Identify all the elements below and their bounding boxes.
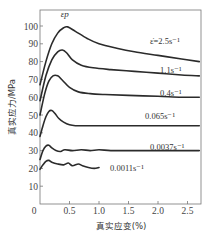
series-label: 0.0037s⁻¹	[150, 142, 185, 152]
y-tick-label: 50	[29, 111, 39, 121]
x-tick-label: 2.0	[152, 206, 164, 216]
y-tick-label: 40	[29, 128, 39, 138]
stress-strain-chart: 102030405060708090100 0.51.01.52.02.5 ε̇…	[0, 0, 210, 237]
y-tick-label: 30	[29, 146, 39, 156]
y-axis-title: 真实应力/MPa	[7, 79, 17, 135]
x-tick-label: 2.5	[182, 206, 194, 216]
y-tick-label: 20	[29, 164, 39, 174]
series-label: 0.065s⁻¹	[145, 111, 175, 121]
series-label: ε̇=2.5s⁻¹	[150, 36, 180, 46]
origin-label: 0	[32, 206, 37, 216]
series-label: 0.0011s⁻¹	[110, 163, 144, 173]
y-tick-label: 60	[29, 93, 39, 103]
x-axis-title: 真实应变(%)	[96, 221, 147, 231]
series-label: 1.1s⁻¹	[160, 65, 182, 75]
peak-strain-annotation: εp	[61, 9, 70, 19]
curve-series	[40, 160, 99, 169]
y-tick-label: 90	[29, 39, 39, 49]
y-tick-label: 80	[29, 57, 39, 67]
x-tick-label: 1.0	[93, 206, 105, 216]
y-tick-label: 10	[29, 182, 39, 192]
series-label: 0.4s⁻¹	[160, 88, 182, 98]
series-labels: ε̇=2.5s⁻¹1.1s⁻¹0.4s⁻¹0.065s⁻¹0.0037s⁻¹0.…	[110, 36, 185, 173]
x-tick-label: 1.5	[123, 206, 135, 216]
curve-series	[40, 110, 199, 136]
x-tick-label: 0.5	[64, 206, 76, 216]
y-tick-label: 70	[29, 75, 39, 85]
y-tick-label: 100	[24, 22, 39, 32]
x-axis-ticks: 0.51.01.52.02.5	[64, 201, 194, 216]
